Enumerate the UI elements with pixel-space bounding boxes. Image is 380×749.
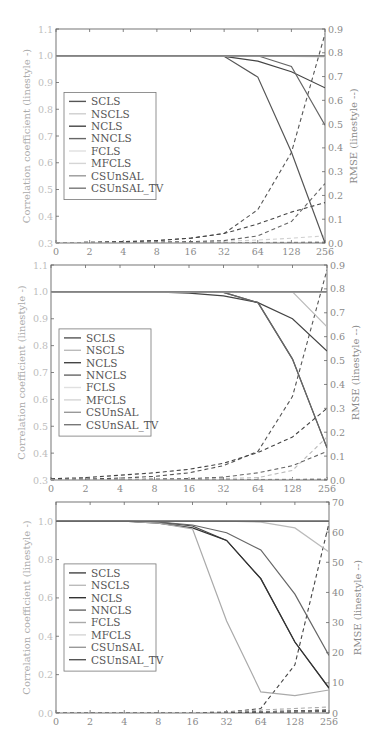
legend-label: NCLS (86, 357, 117, 369)
legend-label: NSCLS (91, 579, 130, 591)
y2-tick-label: 0.5 (328, 119, 343, 130)
x-tick-label: 32 (218, 246, 230, 257)
y-axis-title: Correlation coefficient (linestyle -) (21, 49, 32, 223)
y2-tick-label: 0.9 (330, 260, 345, 271)
y2-tick-label: 20 (332, 647, 344, 658)
x-tick-label: 64 (255, 716, 267, 727)
x-tick-label: 32 (221, 716, 233, 727)
x-tick-label: 2 (87, 716, 93, 727)
y2-tick-label: 0.4 (330, 379, 345, 390)
y2-tick-label: 0.6 (328, 95, 343, 106)
y2-tick-label: 0.3 (328, 166, 343, 177)
y-tick-label: 0.2 (38, 669, 53, 680)
x-tick-label: 128 (283, 483, 301, 494)
chart-figure: 02481632641282560.30.40.50.60.70.80.91.0… (0, 0, 380, 749)
y2-tick-label: 0.5 (330, 355, 345, 366)
legend-label: NNCLS (91, 604, 132, 616)
y2-tick-label: 0.1 (330, 451, 345, 462)
y2-tick-label: 0 (332, 708, 338, 719)
y2-tick-label: 0.9 (328, 24, 343, 35)
y2-tick-label: 0.7 (328, 71, 343, 82)
y-axis-title: Correlation coefficient (linestyle -) (16, 285, 27, 459)
y-tick-label: 0.4 (33, 448, 48, 459)
y2-tick-label: 0.6 (330, 331, 345, 342)
x-tick-label: 128 (286, 716, 304, 727)
y2-axis-title: RMSE (linestyle --) (352, 560, 363, 656)
y2-axis-title: RMSE (linestyle --) (350, 325, 361, 421)
legend-label: MFCLS (91, 629, 131, 641)
rmse-line-nscls (51, 437, 327, 480)
x-tick-label: 8 (155, 716, 161, 727)
legend-label: NSCLS (86, 344, 125, 356)
x-tick-label: 0 (53, 246, 59, 257)
y-tick-label: 0.7 (38, 131, 53, 142)
legend-label: SCLS (91, 567, 120, 579)
legend-label: CSUnSAL_TV (91, 654, 164, 667)
y-tick-label: 0.5 (38, 184, 53, 195)
y2-tick-label: 0.8 (330, 283, 345, 294)
x-tick-label: 128 (282, 246, 300, 257)
y2-axis-title: RMSE (linestyle --) (348, 88, 359, 184)
legend-label: NCLS (91, 592, 122, 604)
legend-label: CSUnSAL_TV (86, 419, 159, 432)
rmse-line-nncls (51, 451, 327, 480)
legend-label: MFCLS (86, 394, 126, 406)
rmse-line-ncls (56, 203, 325, 243)
legend-label: CSUnSAL (91, 170, 144, 182)
y2-tick-label: 0.7 (330, 307, 345, 318)
y2-tick-label: 0.2 (330, 427, 345, 438)
x-tick-label: 32 (217, 483, 229, 494)
y-tick-label: 0.8 (38, 104, 53, 115)
x-tick-label: 2 (82, 483, 88, 494)
y2-tick-label: 50 (332, 557, 344, 568)
x-tick-label: 16 (186, 716, 198, 727)
y-tick-label: 0.3 (38, 238, 53, 249)
y-tick-label: 1.0 (38, 516, 53, 527)
y2-tick-label: 0.3 (330, 403, 345, 414)
legend-label: MFCLS (91, 157, 131, 169)
legend-label: FCLS (86, 381, 116, 393)
legend: SCLSNSCLSNCLSNNCLSFCLSMFCLSCSUnSALCSUnSA… (64, 564, 164, 671)
x-tick-label: 2 (87, 246, 93, 257)
legend-label: CSUnSAL_TV (91, 182, 164, 195)
x-tick-label: 0 (53, 716, 59, 727)
x-tick-label: 64 (252, 483, 264, 494)
y2-tick-label: 0.4 (328, 142, 343, 153)
legend-label: NNCLS (86, 369, 127, 381)
y2-tick-label: 0.2 (328, 190, 343, 201)
y-tick-label: 1.1 (38, 24, 53, 35)
y2-tick-label: 70 (332, 497, 344, 508)
y-tick-label: 0.6 (38, 157, 53, 168)
legend: SCLSNSCLSNCLSNNCLSFCLSMFCLSCSUnSALCSUnSA… (64, 92, 164, 199)
x-tick-label: 16 (184, 246, 196, 257)
legend-label: FCLS (91, 616, 121, 628)
y-tick-label: 0.5 (33, 421, 48, 432)
legend-label: SCLS (91, 95, 120, 107)
legend-label: FCLS (91, 145, 121, 157)
legend-label: CSUnSAL (91, 641, 144, 653)
y-tick-label: 0.4 (38, 631, 53, 642)
legend-label: SCLS (86, 332, 115, 344)
y-tick-label: 0.3 (33, 475, 48, 486)
y2-tick-label: 0.1 (328, 214, 343, 225)
y-tick-label: 0.7 (33, 367, 48, 378)
legend-label: CSUnSAL (86, 406, 139, 418)
x-tick-label: 4 (120, 246, 126, 257)
legend: SCLSNSCLSNCLSNNCLSFCLSMFCLSCSUnSALCSUnSA… (59, 329, 159, 436)
y-tick-label: 0.6 (38, 592, 53, 603)
y2-tick-label: 10 (332, 677, 344, 688)
legend-label: NSCLS (91, 108, 130, 120)
y-tick-label: 1.1 (33, 260, 48, 271)
y-tick-label: 0.8 (33, 340, 48, 351)
x-tick-label: 8 (154, 246, 160, 257)
chart-panel-1: 02481632641282560.30.40.50.60.70.80.91.0… (21, 24, 359, 258)
y-tick-label: 1.0 (38, 50, 53, 61)
legend-label: NNCLS (91, 132, 132, 144)
x-tick-label: 8 (151, 483, 157, 494)
y2-tick-label: 0.0 (328, 238, 343, 249)
y2-tick-label: 0.0 (330, 475, 345, 486)
y2-tick-label: 40 (332, 587, 344, 598)
y-axis-title: Correlation coefficient (linestyle -) (21, 520, 32, 694)
x-tick-label: 64 (252, 246, 264, 257)
y-tick-label: 0.9 (33, 313, 48, 324)
